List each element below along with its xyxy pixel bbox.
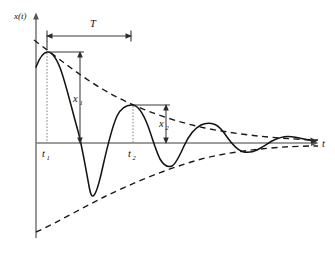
amplitude-1-label: x (72, 93, 78, 104)
y-axis-arrowhead (33, 13, 39, 20)
axis-labels-group: x(t) t (13, 11, 326, 149)
time-2-label: t (128, 148, 132, 159)
period-measure-group: T (46, 18, 132, 50)
plot-canvas: T x 1 x 2 x(t) t t 1 t (0, 0, 335, 259)
time-2-subscript: 2 (133, 154, 137, 161)
damped-oscillation-figure: T x 1 x 2 x(t) t t 1 t (0, 0, 335, 259)
time-labels-group: t 1 t 2 (42, 148, 137, 161)
y-axis-label: x(t) (13, 11, 27, 21)
period-label: T (90, 18, 97, 29)
x-axis-label: t (322, 138, 326, 149)
amplitude-1-subscript: 1 (80, 99, 83, 106)
time-1-subscript: 1 (47, 154, 50, 161)
amplitude-2-label: x (158, 118, 164, 129)
amplitude-2-subscript: 2 (166, 124, 170, 131)
envelope-group (34, 40, 318, 232)
time-1-label: t (42, 148, 46, 159)
